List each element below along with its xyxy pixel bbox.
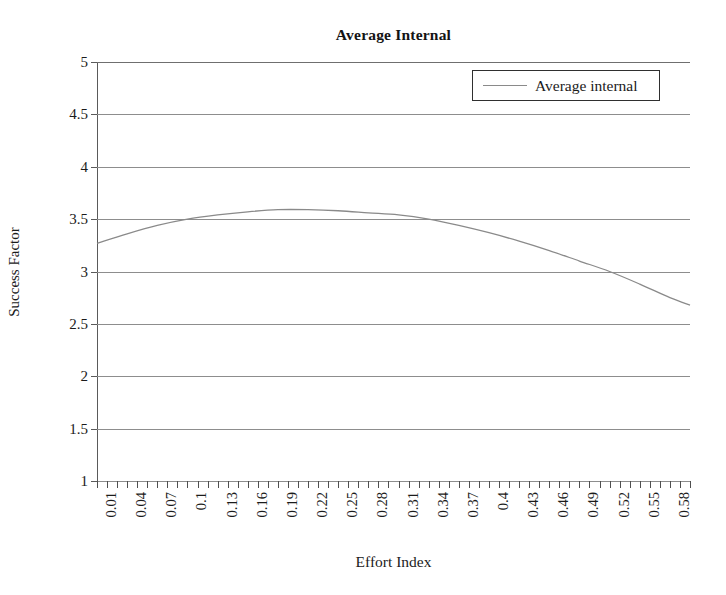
x-tick-mark [127,481,128,488]
x-tick-label: 0.07 [163,492,180,517]
x-tick-label: 0.55 [646,492,663,517]
x-tick-mark [358,481,359,488]
x-tick-mark [610,481,611,488]
x-tick-label: 0.46 [555,492,572,517]
x-tick-mark [187,481,188,488]
x-tick-mark [499,481,500,488]
x-tick-mark [318,481,319,488]
x-tick-mark [630,481,631,488]
plot-area: 54.543.532.521.51 0.010.040.070.10.130.1… [97,62,690,481]
x-tick-mark [208,481,209,488]
x-tick-mark [479,481,480,488]
x-tick-mark [660,481,661,488]
x-axis-title: Effort Index [97,553,690,571]
x-tick-mark [509,481,510,488]
x-tick-label: 0.13 [224,492,241,517]
x-tick-mark [579,481,580,488]
x-tick-label: 0.58 [676,492,693,517]
x-tick-mark [439,481,440,488]
x-tick-label: 0.1 [193,492,210,510]
legend-label-average-internal: Average internal [535,77,638,95]
gridline [97,481,690,482]
x-tick-mark [228,481,229,488]
x-tick-mark [559,481,560,488]
x-tick-mark [238,481,239,488]
chart-title: Average Internal [97,26,690,44]
x-tick-mark [167,481,168,488]
x-tick-mark [248,481,249,488]
x-tick-mark [429,481,430,488]
x-tick-label: 0.16 [254,492,271,517]
legend: Average internal [472,70,660,101]
x-tick-mark [539,481,540,488]
x-tick-mark [519,481,520,488]
x-tick-mark [409,481,410,488]
x-tick-mark [268,481,269,488]
x-tick-mark [258,481,259,488]
x-tick-mark [137,481,138,488]
x-tick-mark [449,481,450,488]
x-tick-mark [690,481,691,488]
x-tick-mark [97,481,98,488]
x-tick-mark [117,481,118,488]
x-tick-mark [620,481,621,488]
x-tick-mark [640,481,641,488]
x-tick-mark [569,481,570,488]
series-line-average-internal [97,209,690,305]
x-tick-label: 0.25 [344,492,361,517]
x-tick-mark [278,481,279,488]
x-tick-mark [198,481,199,488]
x-tick-mark [157,481,158,488]
x-tick-mark [670,481,671,488]
x-tick-label: 0.04 [133,492,150,517]
x-tick-mark [589,481,590,488]
x-tick-mark [338,481,339,488]
x-tick-mark [328,481,329,488]
x-tick-mark [378,481,379,488]
x-tick-mark [107,481,108,488]
x-tick-label: 0.34 [435,492,452,517]
x-tick-mark [469,481,470,488]
y-axis-title: Success Factor [6,227,23,317]
chart-figure: Average Internal Success Factor 54.543.5… [0,0,726,595]
x-tick-label: 0.01 [103,492,120,517]
x-tick-label: 0.43 [525,492,542,517]
x-tick-mark [288,481,289,488]
x-tick-label: 0.52 [616,492,633,517]
x-tick-mark [549,481,550,488]
x-tick-label: 0.22 [314,492,331,517]
x-tick-label: 0.49 [585,492,602,517]
x-tick-mark [459,481,460,488]
x-tick-label: 0.4 [495,492,512,510]
legend-line-swatch [483,85,527,86]
x-tick-mark [388,481,389,488]
x-tick-label: 0.19 [284,492,301,517]
x-tick-mark [489,481,490,488]
x-tick-mark [147,481,148,488]
x-tick-mark [348,481,349,488]
x-tick-label: 0.28 [374,492,391,517]
x-tick-label: 0.31 [405,492,422,517]
x-tick-mark [368,481,369,488]
series-layer [97,62,690,481]
x-tick-mark [419,481,420,488]
x-tick-mark [399,481,400,488]
x-tick-mark [308,481,309,488]
x-tick-mark [680,481,681,488]
x-tick-mark [298,481,299,488]
x-tick-mark [529,481,530,488]
x-tick-mark [177,481,178,488]
x-tick-label: 0.37 [465,492,482,517]
x-tick-mark [600,481,601,488]
x-tick-mark [650,481,651,488]
x-tick-mark [218,481,219,488]
